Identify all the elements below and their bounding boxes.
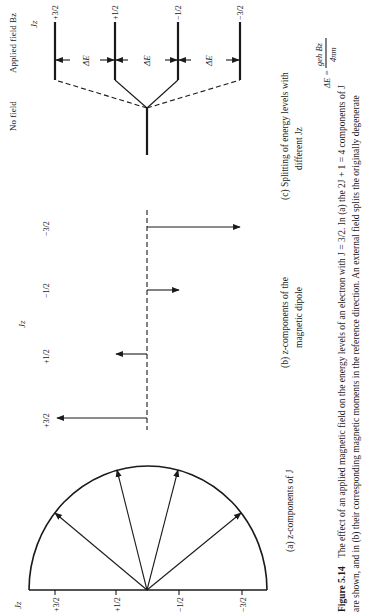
caption-line-2: are shown, and in (b) their correspondin… [351, 95, 362, 612]
delta-e-formula: ΔE = geh Bz 4πm [314, 38, 338, 89]
panel-a-tick-labels: +3/2 +1/2 −1/2 −3/2 [52, 597, 248, 612]
svg-text:−3/2: −3/2 [239, 597, 248, 612]
panel-c-label-line1: (c) Splitting of energy levels with [280, 72, 291, 200]
j-vectors [55, 470, 241, 590]
svg-text:4πm: 4πm [328, 47, 338, 62]
caption-line-1: The effect of an applied magnetic field … [337, 85, 348, 558]
svg-text:−1/2: −1/2 [42, 283, 51, 298]
svg-text:+1/2: +1/2 [42, 349, 51, 364]
svg-text:ΔE: ΔE [142, 55, 152, 67]
level-labels: +3/2 +1/2 −1/2 −3/2 [51, 5, 245, 20]
svg-text:−3/2: −3/2 [236, 5, 245, 20]
panel-a-axis-label: Jz [13, 601, 23, 609]
panel-b-tick-labels: +3/2 +1/2 −1/2 −3/2 [42, 221, 51, 428]
panel-a-vector-diagram: Jz +3/2 +1/2 −1/2 −3/2 (a) z-components … [13, 466, 296, 612]
svg-text:+3/2: +3/2 [52, 597, 61, 612]
panel-b-axis-label: Jz [17, 320, 27, 328]
svg-text:+1/2: +1/2 [111, 5, 120, 20]
vector-minus-three-halves [147, 513, 241, 590]
svg-text:−1/2: −1/2 [176, 597, 185, 612]
fan-line-outer-2 [147, 80, 240, 108]
svg-text:−3/2: −3/2 [42, 221, 51, 236]
fan-line-inner-1 [115, 80, 147, 108]
panel-a-label: (a) z-components of J [285, 469, 296, 552]
delta-e-labels: ΔE ΔE ΔE [81, 55, 214, 67]
panel-b-label-line2: magnetic dipole [294, 287, 304, 348]
panel-b-dipole-diagram: Jz +3/2 +1/2 −1/2 −3/2 (b) z-components … [17, 210, 304, 430]
svg-text:+3/2: +3/2 [42, 413, 51, 428]
applied-field-label: Applied field Bz [8, 13, 18, 73]
semicircle-arc [29, 466, 267, 590]
caption-figure-number: Figure 5.14 [337, 566, 347, 612]
svg-text:+1/2: +1/2 [113, 597, 122, 612]
svg-text:ΔE: ΔE [204, 55, 214, 67]
vector-minus-one-half [147, 470, 178, 590]
fan-line-outer-1 [55, 80, 147, 108]
figure-caption: Figure 5.14 The effect of an applied mag… [337, 85, 362, 612]
figure-5-14: Jz +3/2 +1/2 −1/2 −3/2 (a) z-components … [0, 0, 370, 616]
vector-plus-three-halves [55, 513, 147, 590]
panel-c-axis-label: Jz [29, 20, 39, 28]
svg-text:−1/2: −1/2 [174, 5, 183, 20]
panel-b-label-line1: (b) z-components of the [280, 277, 291, 368]
panel-c-label-line2: different Jz [294, 127, 304, 170]
svg-text:ΔE: ΔE [81, 55, 91, 67]
panel-c-energy-levels: No field Applied field Bz Jz +3/2 +1/2 −… [8, 5, 338, 200]
vector-plus-one-half [117, 470, 147, 590]
svg-text:geh Bz: geh Bz [314, 42, 324, 66]
svg-text:ΔE =: ΔE = [322, 70, 332, 89]
svg-text:+3/2: +3/2 [51, 5, 60, 20]
svg-text:Figure 5.14 The effect o: Figure 5.14 The effect of an applied mag… [337, 85, 348, 612]
no-field-label: No field [8, 101, 18, 131]
